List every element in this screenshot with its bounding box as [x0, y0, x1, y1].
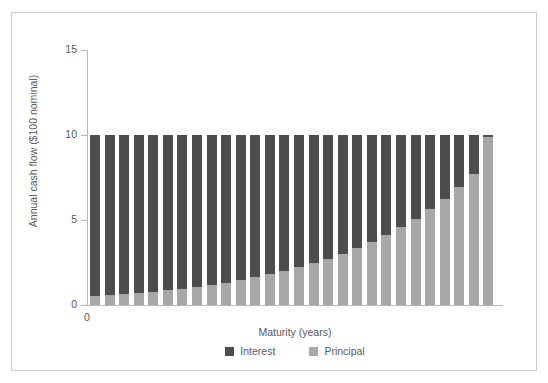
bar-stack: [163, 135, 173, 305]
bar-segment-interest: [90, 135, 100, 296]
bar-segment-principal: [381, 235, 391, 305]
bar-segment-principal: [411, 219, 421, 305]
bar-stack: [177, 135, 187, 305]
bar-segment-interest: [367, 135, 377, 242]
bar-segment-principal: [90, 296, 100, 305]
bar-segment-principal: [250, 277, 260, 305]
y-axis-tick-label: 5: [50, 214, 77, 225]
plot-area: [88, 50, 502, 305]
y-axis-tick: [81, 305, 87, 306]
bar-stack: [396, 135, 406, 305]
bar-segment-principal: [396, 227, 406, 305]
bar-segment-principal: [192, 287, 202, 305]
y-axis-tick-label-text: 5: [50, 214, 77, 225]
bar-segment-principal: [323, 259, 333, 305]
bar-segment-interest: [381, 135, 391, 235]
y-axis-title: Annual cash flow ($100 nominal): [27, 56, 39, 246]
y-axis-tick: [81, 50, 87, 51]
legend-label: Interest: [240, 346, 275, 357]
bar-segment-principal: [440, 199, 450, 305]
bar-segment-interest: [105, 135, 115, 295]
bar-segment-interest: [279, 135, 289, 271]
bar-stack: [192, 135, 202, 305]
bar-segment-interest: [294, 135, 304, 267]
chart-legend: InterestPrincipal: [88, 346, 502, 357]
x-axis-origin-label: 0: [77, 311, 97, 323]
y-axis-tick-label-text: 0: [50, 299, 77, 310]
bar-segment-interest: [177, 135, 187, 289]
bar-stack: [134, 135, 144, 305]
bar-segment-interest: [250, 135, 260, 277]
y-axis-tick-label: 15: [50, 44, 77, 55]
bar-stack: [469, 135, 479, 305]
bar-stack: [352, 135, 362, 305]
bar-segment-interest: [148, 135, 158, 292]
bar-segment-interest: [119, 135, 129, 294]
bar-stack: [294, 135, 304, 305]
bar-segment-interest: [192, 135, 202, 287]
bar-segment-principal: [119, 294, 129, 305]
bar-segment-principal: [352, 248, 362, 305]
x-axis-title: Maturity (years): [88, 326, 502, 338]
chart-figure: 051015 Annual cash flow ($100 nominal) 0…: [0, 0, 548, 383]
y-axis-tick: [81, 135, 87, 136]
bar-stack: [90, 135, 100, 305]
bar-segment-interest: [411, 135, 421, 219]
bar-stack: [207, 135, 217, 305]
bar-stack: [381, 135, 391, 305]
bar-stack: [148, 135, 158, 305]
legend-item: Principal: [309, 346, 364, 357]
legend-label: Principal: [324, 346, 364, 357]
y-axis-tick-label-text: 15: [50, 44, 77, 55]
bar-segment-principal: [134, 293, 144, 305]
bar-segment-principal: [425, 209, 435, 305]
bar-segment-principal: [454, 187, 464, 305]
bar-stack: [425, 135, 435, 305]
bar-stack: [454, 135, 464, 305]
bar-stack: [367, 135, 377, 305]
bar-segment-principal: [105, 295, 115, 305]
bar-stack: [440, 135, 450, 305]
bar-segment-principal: [294, 267, 304, 305]
bar-segment-principal: [469, 174, 479, 305]
legend-swatch-icon: [309, 347, 318, 356]
bar-segment-interest: [265, 135, 275, 274]
bar-segment-principal: [265, 274, 275, 305]
bar-stack: [309, 135, 319, 305]
bar-segment-interest: [134, 135, 144, 293]
bar-segment-interest: [236, 135, 246, 280]
y-axis-tick-label: 10: [50, 129, 77, 140]
bar-stack: [250, 135, 260, 305]
bar-stack: [236, 135, 246, 305]
bar-segment-interest: [338, 135, 348, 254]
bar-segment-principal: [309, 263, 319, 305]
bar-segment-principal: [221, 283, 231, 305]
bar-stack: [411, 135, 421, 305]
bar-segment-interest: [163, 135, 173, 290]
bar-segment-interest: [309, 135, 319, 263]
bar-segment-principal: [163, 290, 173, 305]
bar-segment-interest: [425, 135, 435, 209]
bar-segment-principal: [148, 292, 158, 305]
bar-segment-principal: [279, 271, 289, 305]
bar-segment-principal: [483, 137, 493, 305]
bar-stack: [279, 135, 289, 305]
bar-stack: [483, 135, 493, 305]
bar-segment-principal: [236, 280, 246, 305]
bar-segment-interest: [396, 135, 406, 227]
bar-stack: [119, 135, 129, 305]
bar-segment-interest: [469, 135, 479, 174]
bar-segment-interest: [323, 135, 333, 259]
bar-segment-interest: [352, 135, 362, 248]
bar-stack: [265, 135, 275, 305]
bar-segment-principal: [177, 289, 187, 305]
bar-stack: [221, 135, 231, 305]
bar-segment-interest: [440, 135, 450, 199]
bar-segment-principal: [338, 254, 348, 305]
bar-segment-principal: [207, 285, 217, 305]
legend-swatch-icon: [225, 347, 234, 356]
bar-stack: [338, 135, 348, 305]
bar-stack: [105, 135, 115, 305]
bar-segment-principal: [367, 242, 377, 305]
x-axis-line: [87, 305, 503, 306]
